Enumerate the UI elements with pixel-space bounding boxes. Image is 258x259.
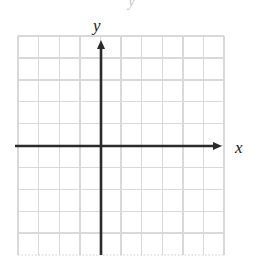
y-axis-label: y: [91, 16, 101, 35]
artifact-glyph-y: y: [126, 0, 136, 10]
top-edge-artifact: y: [126, 0, 136, 10]
x-axis-label: x: [234, 138, 243, 157]
coordinate-plane-svg: y: [0, 0, 258, 259]
coordinate-grid-figure: y: [0, 0, 258, 259]
